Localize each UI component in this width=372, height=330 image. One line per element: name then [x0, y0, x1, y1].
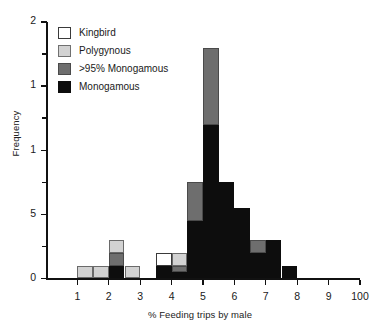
bar-segment-monogamous: [109, 266, 125, 279]
x-tick: 3: [140, 280, 141, 285]
bar-segment-kingbird: [156, 253, 172, 266]
y-tick-major: 0: [41, 278, 47, 279]
bar-segment-polygynous: [93, 266, 109, 279]
y-tick-major: 1: [41, 85, 47, 86]
x-tick-label: 100: [351, 290, 369, 302]
histogram-bar: [109, 240, 125, 278]
legend-label: Kingbird: [79, 28, 116, 38]
bar-segment-monogamous: [266, 240, 282, 278]
histogram-bar: [250, 240, 266, 278]
y-tick-label: 0: [30, 271, 36, 283]
bar-segment-mono95: [172, 266, 188, 272]
bar-segment-mono95: [109, 253, 125, 266]
x-tick: 7: [265, 280, 266, 285]
x-axis-title: % Feeding trips by male: [40, 309, 360, 320]
y-tick-minor: [42, 53, 47, 54]
y-tick-major: 2: [41, 21, 47, 22]
legend-item-mono95: >95% Monogamous: [58, 60, 208, 77]
y-axis-line: [46, 22, 48, 280]
histogram-bar: [219, 182, 235, 278]
legend-swatch-kingbird: [58, 27, 71, 39]
histogram-bar: [234, 208, 250, 279]
y-tick-label: 1: [30, 143, 36, 155]
x-tick: 100: [359, 280, 360, 285]
y-tick-label: 2: [30, 14, 36, 26]
bar-segment-mono95: [187, 182, 203, 220]
bar-segment-polygynous: [77, 266, 93, 279]
histogram-bar: [172, 253, 188, 279]
x-tick: 4: [171, 280, 172, 285]
legend-item-polygynous: Polygynous: [58, 42, 208, 59]
y-tick-minor: [42, 182, 47, 183]
x-tick-label: 4: [169, 290, 175, 302]
x-tick: 8: [297, 280, 298, 285]
x-tick-label: 3: [137, 290, 143, 302]
histogram-bar: [156, 253, 172, 279]
histogram-bar: [93, 266, 109, 279]
legend-item-kingbird: Kingbird: [58, 24, 208, 41]
x-tick-label: 8: [294, 290, 300, 302]
x-tick-label: 2: [106, 290, 112, 302]
x-tick: 1: [77, 280, 78, 285]
bar-segment-polygynous: [172, 253, 188, 266]
x-tick-label: 1: [74, 290, 80, 302]
legend: KingbirdPolygynous>95% MonogamousMonogam…: [58, 24, 208, 96]
histogram-bar: [266, 240, 282, 278]
bar-segment-monogamous: [187, 221, 203, 279]
x-tick: 9: [328, 280, 329, 285]
x-tick-label: 6: [231, 290, 237, 302]
legend-label: >95% Monogamous: [79, 64, 168, 74]
bar-segment-polygynous: [125, 266, 141, 279]
x-tick-label: 7: [263, 290, 269, 302]
x-tick: 2: [108, 280, 109, 285]
y-tick-major: 1: [41, 150, 47, 151]
y-tick-minor: [42, 246, 47, 247]
y-tick-label: 5: [30, 207, 36, 219]
bar-segment-monogamous: [172, 272, 188, 278]
y-tick-label: 1: [30, 78, 36, 90]
histogram-bar: [125, 266, 141, 279]
y-axis-title: Frequency: [10, 89, 21, 179]
legend-swatch-polygynous: [58, 45, 71, 57]
legend-label: Polygynous: [79, 46, 131, 56]
bar-segment-polygynous: [109, 240, 125, 253]
bar-segment-monogamous: [282, 266, 298, 279]
x-tick-label: 9: [326, 290, 332, 302]
bar-segment-monogamous: [156, 266, 172, 279]
histogram-bar: [77, 266, 93, 279]
histogram-figure: Frequency % Feeding trips by male 21150 …: [0, 0, 372, 330]
bar-segment-monogamous: [203, 125, 219, 279]
bar-segment-monogamous: [219, 182, 235, 278]
legend-item-monogamous: Monogamous: [58, 78, 208, 95]
legend-swatch-mono95: [58, 63, 71, 75]
bar-segment-mono95: [250, 240, 266, 253]
histogram-bar: [282, 266, 298, 279]
histogram-bar: [187, 182, 203, 278]
x-tick: 6: [234, 280, 235, 285]
bar-segment-monogamous: [234, 208, 250, 279]
x-tick-label: 5: [200, 290, 206, 302]
legend-swatch-monogamous: [58, 81, 71, 93]
bar-segment-monogamous: [250, 253, 266, 279]
y-tick-major: 5: [41, 214, 47, 215]
legend-label: Monogamous: [79, 82, 140, 92]
y-tick-minor: [42, 117, 47, 118]
x-tick: 5: [202, 280, 203, 285]
